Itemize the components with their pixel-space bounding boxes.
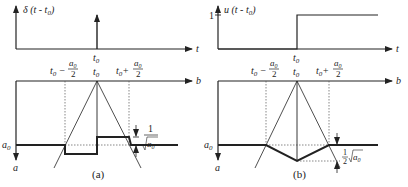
y-label: u (t - t0) [224,4,256,17]
delta-numerator: 1 [148,123,153,134]
svg-text:a0: a0 [134,58,142,69]
t0-label: t0 [293,52,300,65]
y-tick-1: 1 [209,10,214,21]
svg-text:2: 2 [336,69,341,79]
cone-right [97,81,141,168]
b-label: b [396,75,401,86]
diagram-canvas: δ (t - t0) t t0 b a a0 t0 − a0 2 t0 t0+ … [0,0,408,187]
ambiguity-plot-b: b a a0 t0 − a0 2 t0 t0+ a0 2 1 2 [204,58,401,181]
t0-center-label: t0 [93,66,100,79]
delta-denominator: a0 [147,139,155,150]
svg-text:2: 2 [343,157,347,166]
caption-b: (b) [293,168,306,181]
unit-step [218,15,378,49]
t0-minus-label: t0 − [50,65,66,78]
a0-label: a0 [204,139,213,152]
svg-text:2: 2 [136,69,141,79]
a-label: a [215,162,220,173]
svg-text:t0: t0 [293,66,300,79]
svg-text:t0+: t0+ [316,65,329,78]
frac-a0-left: a0 [69,58,77,69]
cone-right [297,81,340,168]
a-label: a [13,162,18,173]
caption-a: (a) [92,168,105,181]
ambiguity-plot-a: b a a0 t0 − a0 2 t0 t0+ a0 2 [2,58,201,181]
svg-text:1: 1 [343,148,347,157]
b-label: b [196,75,201,86]
svg-text:2: 2 [272,69,277,79]
t0-label: t0 [93,52,100,65]
x-label: t [396,43,399,54]
svg-text:t0 −: t0 − [251,65,267,78]
y-label: δ (t - t0) [23,4,55,17]
step-plot: 1 u (t - t0) t t0 [209,4,399,65]
a0-label: a0 [2,139,11,152]
cone-left [255,81,297,168]
svg-text:a0: a0 [334,58,342,69]
panel-b: 1 u (t - t0) t t0 b a a0 t0 − a0 2 t0 t0… [204,4,401,181]
x-label: t [196,43,199,54]
delta-plot: δ (t - t0) t t0 [16,4,199,65]
t0-plus-label: t0+ [116,65,129,78]
panel-a: δ (t - t0) t t0 b a a0 t0 − a0 2 t0 t0+ … [2,4,201,181]
svg-text:2: 2 [71,69,76,79]
sqrt-a0: a0 [353,152,361,163]
svg-text:a0: a0 [270,58,278,69]
